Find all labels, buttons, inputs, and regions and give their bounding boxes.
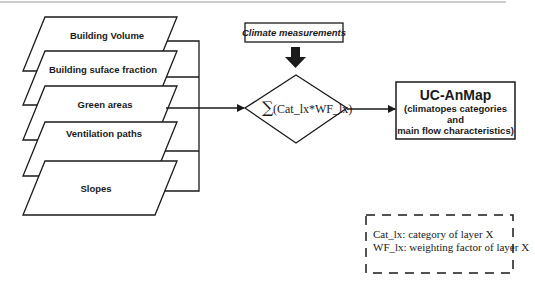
down-arrow-icon <box>285 47 306 68</box>
legend-line-cat: Cat_lx: category of layer X <box>373 228 493 240</box>
flow-diagram: Building Volume Building suface fraction… <box>0 0 535 287</box>
climate-measurements-box: Climate measurements <box>242 23 346 42</box>
output-title: UC-AnMap <box>420 87 492 103</box>
legend-line-wf: WF_lx: weighting factor of layer X <box>373 241 529 253</box>
layer-label: Ventilation paths <box>66 128 142 139</box>
layer-slopes: Slopes <box>23 161 177 215</box>
legend-box: Cat_lx: category of layer X WF_lx: weigh… <box>366 215 529 273</box>
layer-label: Building suface fraction <box>49 64 157 75</box>
output-subtitle-line1: (climatopes categories <box>404 103 507 114</box>
formula-text: (Cat_lx*WF_lx) <box>273 102 352 116</box>
climate-measurements-label: Climate measurements <box>242 27 346 38</box>
layer-label: Building Volume <box>70 30 144 41</box>
weighted-sum-diamond: ∑ (Cat_lx*WF_lx) <box>245 75 352 143</box>
layer-label: Green areas <box>78 99 133 110</box>
layer-label: Slopes <box>80 183 111 194</box>
output-box: UC-AnMap (climatopes categories and main… <box>396 82 515 139</box>
output-subtitle-line3: main flow characteristics) <box>397 125 514 136</box>
output-subtitle-line2: and <box>447 114 464 125</box>
